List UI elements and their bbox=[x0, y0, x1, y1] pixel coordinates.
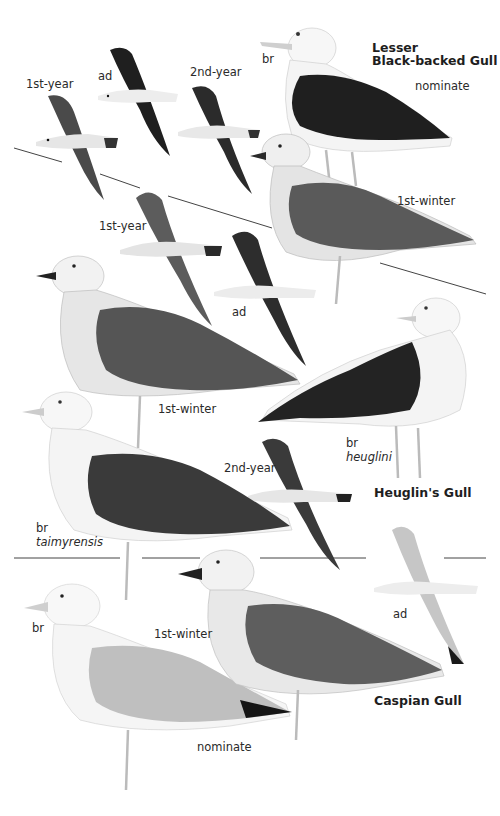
species-title-caspian-gull: Caspian Gull bbox=[374, 694, 462, 708]
label-heuglini-subspecies: heuglini bbox=[346, 451, 392, 464]
label-caspian-breeding: br bbox=[32, 622, 44, 635]
label-heuglins-breeding: br bbox=[346, 437, 358, 450]
label-caspian-adult-flight: ad bbox=[393, 608, 407, 621]
label-heuglins-1st-winter: 1st-winter bbox=[158, 403, 216, 416]
label-lbb-adult-flight-2: ad bbox=[232, 306, 246, 319]
species-title-heuglins-gull: Heuglin's Gull bbox=[374, 486, 472, 500]
label-lbb-2nd-year-flight: 2nd-year bbox=[190, 66, 242, 79]
label-lbb-1st-year-flight-2: 1st-year bbox=[99, 220, 146, 233]
label-taimyrensis-breeding: br bbox=[36, 522, 48, 535]
lbb-1st-year-flight bbox=[36, 95, 118, 200]
label-heuglins-2nd-year-flight: 2nd-year bbox=[224, 462, 276, 475]
label-caspian-1st-winter: 1st-winter bbox=[154, 628, 212, 641]
field-guide-plate: 1st-year ad 2nd-year br Lesser Black-bac… bbox=[0, 0, 500, 816]
label-lbb-1st-year-flight: 1st-year bbox=[26, 78, 73, 91]
label-lbb-1st-winter: 1st-winter bbox=[397, 195, 455, 208]
subspecies-label-nominate-lbb: nominate bbox=[415, 80, 470, 93]
heuglins-2nd-year-flight bbox=[248, 439, 352, 570]
subspecies-label-nominate-caspian: nominate bbox=[197, 741, 252, 754]
label-lbb-adult-flight: ad bbox=[98, 70, 112, 83]
lbb-1st-winter-standing bbox=[250, 134, 476, 304]
label-lbb-breeding: br bbox=[262, 53, 274, 66]
species-title-lesser-black-backed-line2: Black-backed Gull bbox=[372, 54, 497, 68]
label-taimyrensis-subspecies: taimyrensis bbox=[36, 536, 103, 549]
lbb-2nd-year-flight bbox=[178, 86, 260, 194]
